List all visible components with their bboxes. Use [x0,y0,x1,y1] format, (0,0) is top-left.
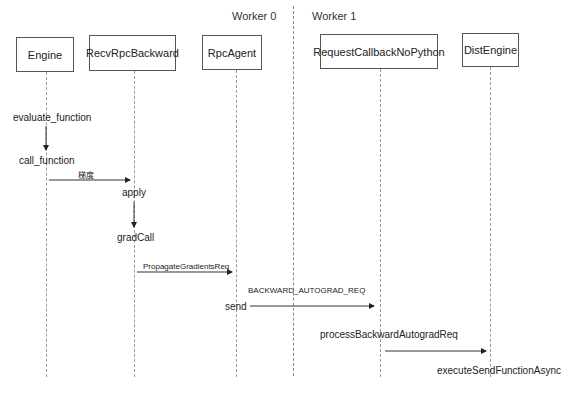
message-arrows [0,0,556,417]
